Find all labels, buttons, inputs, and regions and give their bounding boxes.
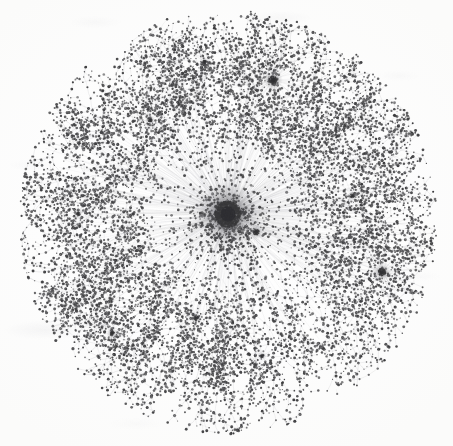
network-graph-canvas bbox=[0, 0, 453, 446]
network-graph-figure: Scale-free network graph bbox=[0, 0, 453, 446]
